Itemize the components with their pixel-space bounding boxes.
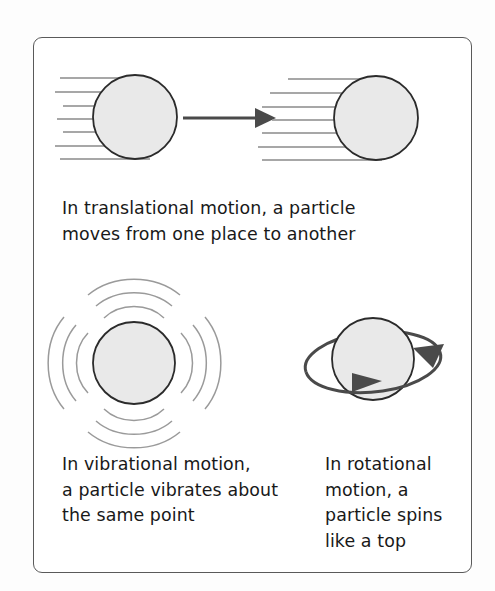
caption-vibrational: In vibrational motion, a particle vibrat… [62,452,317,529]
caption-rotational: In rotational motion, a particle spins l… [325,452,465,554]
figure-root: In translational motion, a particle move… [0,0,495,591]
caption-translational: In translational motion, a particle move… [62,196,422,247]
